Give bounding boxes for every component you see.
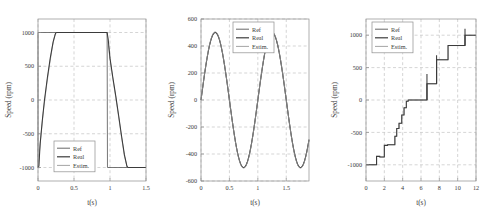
y-tick-label: 0	[359, 96, 362, 103]
x-tick-label: 0	[364, 184, 367, 191]
chart-panel-2: 00.511.5-600-400-2000200400600t(s)Speed …	[163, 0, 326, 218]
x-axis-title: t(s)	[250, 199, 260, 207]
chart-panel-1: 00.511.5-1000-50005001000t(s)Speed (rpm)…	[0, 0, 163, 218]
y-tick-label: -200	[186, 123, 197, 130]
y-tick-label: 500	[353, 64, 362, 71]
x-tick-label: 1	[256, 184, 259, 191]
x-tick-label: 2	[383, 184, 386, 191]
speed-response-figure: 00.511.5-1000-50005001000t(s)Speed (rpm)…	[0, 0, 490, 218]
x-tick-label: 8	[438, 184, 441, 191]
y-tick-label: 0	[194, 96, 197, 103]
chart-svg-trapezoid: 00.511.5-1000-50005001000t(s)Speed (rpm)…	[0, 0, 163, 218]
y-tick-label: 500	[25, 62, 34, 69]
legend-label-real: Real	[391, 34, 403, 41]
legend-label-real: Real	[73, 153, 85, 160]
x-tick-label: 0	[36, 184, 39, 191]
legend-label-real: Real	[252, 34, 264, 41]
legend-label-estim: Estim.	[73, 162, 89, 169]
x-tick-label: 0	[199, 184, 202, 191]
x-tick-label: 0.5	[226, 184, 234, 191]
x-tick-label: 10	[455, 184, 461, 191]
y-tick-label: -500	[23, 130, 34, 137]
x-axis-title: t(s)	[87, 199, 97, 207]
x-tick-label: 1.5	[142, 184, 150, 191]
legend: RefRealEstim.	[54, 141, 95, 172]
legend-label-estim: Estim.	[391, 43, 407, 50]
x-axis-title: t(s)	[416, 199, 426, 207]
x-tick-label: 1.5	[282, 184, 290, 191]
y-tick-label: 1000	[22, 29, 34, 36]
x-tick-label: 0.5	[70, 184, 78, 191]
legend: RefRealEstim.	[233, 22, 274, 53]
y-tick-label: 1000	[350, 31, 362, 38]
y-tick-label: -400	[186, 150, 197, 157]
legend-label-ref: Ref	[252, 26, 262, 33]
y-tick-label: 0	[31, 96, 34, 103]
y-tick-label: -1000	[348, 161, 362, 168]
y-axis-title: Speed (rpm)	[168, 82, 176, 118]
y-tick-label: 400	[188, 42, 197, 49]
y-tick-label: -600	[186, 177, 197, 184]
y-axis-title: Speed (rpm)	[331, 82, 339, 118]
y-tick-label: 600	[188, 15, 197, 22]
legend-label-ref: Ref	[391, 26, 401, 33]
chart-panel-3: 024681012-1000-50005001000t(s)Speed (rpm…	[326, 0, 489, 218]
legend-label-ref: Ref	[73, 145, 83, 152]
chart-svg-sine: 00.511.5-600-400-2000200400600t(s)Speed …	[163, 0, 326, 218]
y-tick-label: -1000	[20, 164, 34, 171]
legend-label-estim: Estim.	[252, 43, 268, 50]
y-tick-label: -500	[351, 129, 362, 136]
x-tick-label: 4	[401, 184, 404, 191]
x-tick-label: 1	[108, 184, 111, 191]
y-axis-title: Speed (rpm)	[5, 82, 13, 118]
legend: RefRealEstim.	[372, 22, 413, 53]
y-tick-label: 200	[188, 69, 197, 76]
x-tick-label: 12	[473, 184, 479, 191]
x-tick-label: 6	[419, 184, 422, 191]
chart-svg-staircase: 024681012-1000-50005001000t(s)Speed (rpm…	[326, 0, 490, 218]
